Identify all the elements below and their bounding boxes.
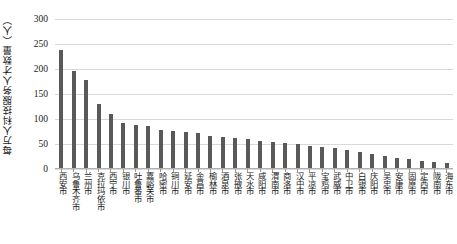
y-axis-tick-label: 50	[39, 139, 49, 149]
x-axis-category-label: 金昌市	[194, 172, 202, 195]
x-label-slot: 嘉峪关市	[142, 172, 154, 244]
bar-slot	[167, 19, 179, 169]
y-axis-tick-label: 0	[43, 164, 48, 174]
bar-slot	[105, 19, 117, 169]
bar	[121, 123, 125, 170]
x-label-slot: 固原市	[403, 172, 415, 244]
y-axis-tick-labels: 300250200150100500	[16, 0, 52, 175]
bar	[171, 131, 175, 170]
bar	[221, 137, 225, 170]
x-label-slot: 安康市	[391, 172, 403, 244]
x-axis-category-label: 白银市	[356, 172, 364, 195]
bar-slot	[92, 19, 104, 169]
bar	[370, 154, 374, 169]
x-label-slot: 商洛市	[279, 172, 291, 244]
x-axis-category-label: 克拉玛依市	[94, 172, 102, 211]
bar-chart: 每万人科技服务人才数量（人） 300250200150100500 西安市乌鲁木…	[0, 0, 457, 244]
bar-slot	[67, 19, 79, 169]
x-axis-category-label: 西宁市	[107, 172, 115, 195]
bar	[283, 143, 287, 169]
bar-slot	[142, 19, 154, 169]
y-axis-tick-label: 150	[34, 89, 48, 99]
x-label-slot: 铜川市	[167, 172, 179, 244]
x-axis-category-label: 中卫市	[343, 172, 351, 195]
x-label-slot: 庆阳市	[366, 172, 378, 244]
bar	[134, 125, 138, 169]
bar	[320, 147, 324, 170]
x-label-slot: 陇南市	[428, 172, 440, 244]
y-axis-tick-label: 200	[34, 64, 48, 74]
x-label-slot: 天水市	[242, 172, 254, 244]
bar	[109, 114, 113, 169]
bar-slot	[416, 19, 428, 169]
x-label-slot: 白银市	[354, 172, 366, 244]
y-axis-tick-label: 300	[34, 14, 48, 24]
gridline	[55, 169, 453, 170]
bar-slot	[229, 19, 241, 169]
bar-slot	[341, 19, 353, 169]
x-label-slot: 西安市	[55, 172, 67, 244]
y-axis-tick-label: 250	[34, 39, 48, 49]
x-axis-category-label: 榆林市	[206, 172, 214, 195]
x-axis-category-label: 固原市	[405, 172, 413, 195]
bar-slot	[391, 19, 403, 169]
bar-slot	[55, 19, 67, 169]
bar-series	[55, 19, 453, 169]
x-label-slot: 武威市	[329, 172, 341, 244]
bar-slot	[354, 19, 366, 169]
x-axis-category-label: 乌鲁木齐市	[69, 172, 77, 211]
x-label-slot: 海东市	[441, 172, 453, 244]
x-axis-category-label: 吐鲁番市	[132, 172, 140, 203]
x-axis-category-labels: 西安市乌鲁木齐市兰州市克拉玛依市西宁市银川市吐鲁番市嘉峪关市哈密市铜川市延安市金…	[55, 172, 453, 244]
x-label-slot: 定西市	[416, 172, 428, 244]
bar-slot	[217, 19, 229, 169]
x-axis-category-label: 嘉峪关市	[144, 172, 152, 203]
bar-slot	[254, 19, 266, 169]
x-label-slot: 吐鲁番市	[130, 172, 142, 244]
x-label-slot: 吴忠市	[378, 172, 390, 244]
x-label-slot: 张掖市	[229, 172, 241, 244]
bar	[184, 132, 188, 169]
y-axis-title: 每万人科技服务人才数量（人）	[2, 0, 16, 170]
bar	[358, 152, 362, 169]
plot-area	[55, 19, 453, 169]
bar	[271, 142, 275, 170]
x-axis-category-label: 渭南市	[268, 172, 276, 195]
bar-slot	[279, 19, 291, 169]
x-axis-category-label: 吴忠市	[380, 172, 388, 195]
x-axis-category-label: 张掖市	[231, 172, 239, 195]
bar-slot	[403, 19, 415, 169]
x-axis-category-label: 银川市	[119, 172, 127, 195]
bar-slot	[204, 19, 216, 169]
x-label-slot: 宝鸡市	[316, 172, 328, 244]
x-axis-category-label: 延安市	[181, 172, 189, 195]
x-label-slot: 银川市	[117, 172, 129, 244]
bar-slot	[428, 19, 440, 169]
x-label-slot: 克拉玛依市	[92, 172, 104, 244]
bar	[246, 139, 250, 169]
x-axis-category-label: 西安市	[57, 172, 65, 195]
x-axis-category-label: 平凉市	[306, 172, 314, 195]
bar-slot	[155, 19, 167, 169]
bar	[208, 136, 212, 169]
x-axis-category-label: 武威市	[331, 172, 339, 195]
bar-slot	[291, 19, 303, 169]
x-label-slot: 汉中市	[291, 172, 303, 244]
x-axis-category-label: 天水市	[244, 172, 252, 195]
bar	[72, 71, 76, 169]
x-label-slot: 哈密市	[155, 172, 167, 244]
x-axis-category-label: 陇南市	[430, 172, 438, 195]
x-axis-category-label: 兰州市	[82, 172, 90, 195]
bar-slot	[378, 19, 390, 169]
y-axis-tick-label: 100	[34, 114, 48, 124]
bar	[97, 104, 101, 170]
bar	[333, 148, 337, 169]
x-axis-category-label: 汉中市	[293, 172, 301, 195]
bar	[159, 130, 163, 169]
bar	[308, 146, 312, 170]
x-label-slot: 兰州市	[80, 172, 92, 244]
bar-slot	[117, 19, 129, 169]
bar-slot	[192, 19, 204, 169]
x-axis-category-label: 酒泉市	[219, 172, 227, 195]
bar-slot	[316, 19, 328, 169]
